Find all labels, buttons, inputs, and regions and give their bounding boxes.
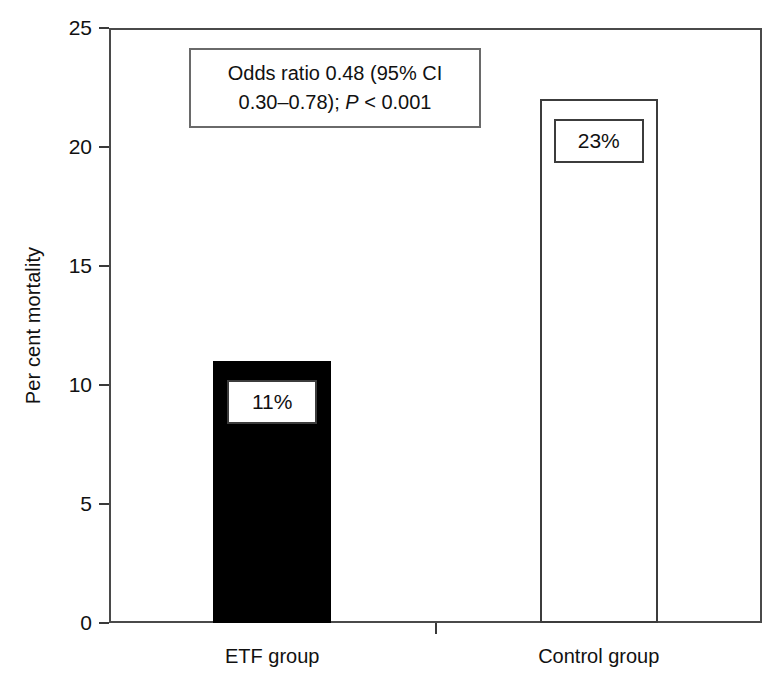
annotation-line-2: 0.30–0.78); P < 0.001 (239, 88, 432, 117)
y-axis-tick-label: 0 (48, 612, 92, 633)
y-axis-tick-mark (99, 27, 109, 29)
annotation-line-1: Odds ratio 0.48 (95% CI (228, 59, 443, 88)
y-axis-tick-mark (99, 265, 109, 267)
odds-ratio-annotation: Odds ratio 0.48 (95% CI 0.30–0.78); P < … (189, 48, 481, 128)
annotation-ci-range: 0.30–0.78); (239, 91, 346, 113)
y-axis-tick-label: 10 (48, 374, 92, 395)
y-axis-tick-mark (99, 622, 109, 624)
y-axis-tick-mark (99, 146, 109, 148)
x-axis-tick-label: Control group (538, 645, 659, 668)
y-axis-tick-mark (99, 384, 109, 386)
y-axis-tick-label: 25 (48, 17, 92, 38)
y-axis-tick-label: 20 (48, 136, 92, 157)
bar-etf-group: 11% (213, 361, 331, 623)
annotation-p-symbol: P (345, 91, 358, 113)
chart-figure: Per cent mortality 0510152025 11%23% ETF… (0, 0, 778, 688)
y-axis-tick-labels: 0510152025 (42, 0, 92, 688)
y-axis-tick-mark (99, 503, 109, 505)
y-axis-tick-label: 5 (48, 493, 92, 514)
y-axis-tick-label: 15 (48, 255, 92, 276)
annotation-p-value: < 0.001 (359, 91, 432, 113)
x-axis-tick-mark (435, 623, 437, 634)
bar-value-label: 11% (227, 380, 317, 424)
bar-control-group: 23% (540, 99, 658, 623)
bar-value-label: 23% (554, 119, 644, 163)
x-axis-tick-label: ETF group (225, 645, 319, 668)
